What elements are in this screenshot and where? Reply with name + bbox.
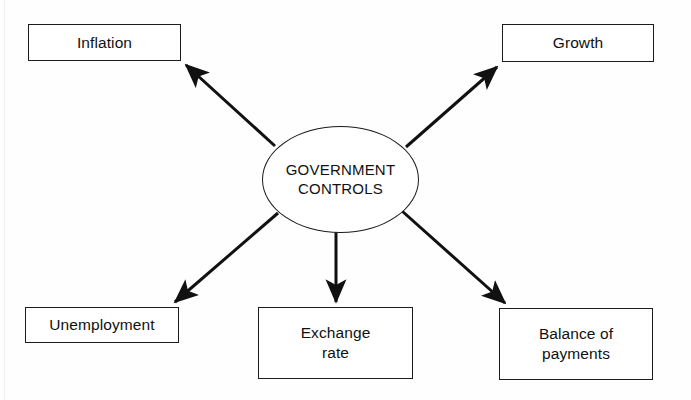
node-exchange-rate-label: Exchange rate xyxy=(301,323,371,363)
node-unemployment-label: Unemployment xyxy=(49,315,154,335)
node-balance-of-payments: Balance of payments xyxy=(499,308,653,380)
node-government-controls-label: GOVERNMENT CONTROLS xyxy=(286,161,396,198)
node-inflation-label: Inflation xyxy=(77,33,132,53)
connector-to-balance-of-payments xyxy=(402,211,505,303)
node-growth-label: Growth xyxy=(553,33,604,53)
node-inflation: Inflation xyxy=(28,24,181,61)
diagram-canvas: Inflation Growth GOVERNMENT CONTROLS Une… xyxy=(0,0,691,400)
node-growth: Growth xyxy=(502,24,654,62)
node-government-controls: GOVERNMENT CONTROLS xyxy=(262,126,419,233)
connector-to-unemployment xyxy=(175,213,278,302)
node-unemployment: Unemployment xyxy=(25,307,179,343)
node-balance-of-payments-label: Balance of payments xyxy=(539,324,613,364)
node-exchange-rate: Exchange rate xyxy=(258,307,413,379)
connector-to-inflation xyxy=(186,65,275,146)
connector-to-growth xyxy=(406,67,497,147)
